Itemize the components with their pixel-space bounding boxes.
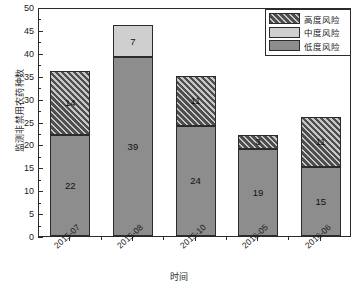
bar-value-label: 22	[65, 181, 76, 191]
bar-value-label: 24	[190, 176, 201, 186]
y-tick-major	[38, 77, 43, 78]
y-tick-label: 5	[12, 209, 34, 219]
legend-swatch	[269, 40, 300, 51]
y-tick-major	[38, 123, 43, 124]
bar-segment[interactable]: 11	[176, 76, 216, 126]
y-tick-major	[38, 145, 43, 146]
bar-group[interactable]: 397	[113, 7, 153, 236]
y-tick-major	[38, 214, 43, 215]
y-tick-minor	[38, 19, 41, 20]
bar-value-label: 11	[316, 137, 326, 147]
y-tick-label: 50	[12, 3, 34, 13]
y-tick-major	[38, 8, 43, 9]
y-tick-major	[38, 237, 43, 238]
bar-value-label: 3	[255, 137, 260, 147]
y-tick-minor	[38, 65, 41, 66]
bar-group[interactable]: 2214	[50, 7, 90, 236]
y-tick-minor	[38, 134, 41, 135]
x-tick-minor	[226, 237, 227, 240]
bar-segment[interactable]: 22	[50, 135, 90, 236]
bar-segment[interactable]: 3	[238, 135, 278, 149]
bar-segment[interactable]: 24	[176, 126, 216, 236]
legend-swatch	[269, 27, 300, 38]
bar-segment[interactable]: 11	[301, 117, 341, 167]
y-tick-minor	[38, 42, 41, 43]
bar-segment[interactable]: 7	[113, 25, 153, 57]
legend-label: 低度风险	[304, 40, 340, 52]
legend-label: 中度风险	[304, 26, 340, 38]
y-tick-label: 0	[12, 232, 34, 242]
legend-swatch	[269, 13, 300, 24]
y-tick-minor	[38, 157, 41, 158]
bar-segment[interactable]: 19	[238, 149, 278, 236]
legend-item[interactable]: 高度风险	[269, 12, 347, 26]
bar-value-label: 11	[191, 96, 201, 106]
bar-group[interactable]: 2411	[176, 7, 216, 236]
stacked-bar-chart: 05101520253035404550 监测非禁用农药种数 221439724…	[0, 0, 359, 290]
bar-value-label: 7	[130, 37, 135, 47]
y-tick-major	[38, 100, 43, 101]
bar-segment[interactable]: 39	[113, 57, 153, 236]
y-tick-major	[38, 31, 43, 32]
x-tick-minor	[101, 237, 102, 240]
y-tick-major	[38, 54, 43, 55]
bar-value-label: 14	[65, 98, 76, 108]
x-tick-minor	[288, 237, 289, 240]
x-axis-title: 时间	[0, 270, 359, 283]
bar-value-label: 19	[253, 188, 264, 198]
y-tick-minor	[38, 203, 41, 204]
y-tick-minor	[38, 88, 41, 89]
bar-value-label: 15	[315, 197, 326, 207]
legend-label: 高度风险	[304, 13, 340, 25]
y-tick-major	[38, 168, 43, 169]
y-tick-minor	[38, 226, 41, 227]
legend-item[interactable]: 低度风险	[269, 39, 347, 53]
legend-item[interactable]: 中度风险	[269, 26, 347, 40]
y-tick-minor	[38, 111, 41, 112]
y-tick-minor	[38, 180, 41, 181]
y-axis-title: 监测非禁用农药种数	[13, 26, 26, 196]
bar-value-label: 39	[128, 142, 139, 152]
y-tick-major	[38, 191, 43, 192]
x-tick-minor	[163, 237, 164, 240]
bar-segment[interactable]: 14	[50, 71, 90, 135]
legend: 高度风险中度风险低度风险	[265, 9, 351, 56]
